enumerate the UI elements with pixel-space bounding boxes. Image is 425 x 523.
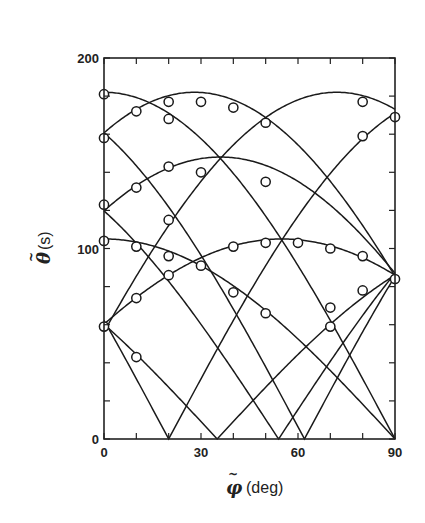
data-point [164,215,173,224]
y-tick-label: 100 [77,242,99,257]
y-axis-unit: (s) [36,231,53,250]
data-point [132,107,141,116]
data-point [164,97,173,106]
x-tick-label: 30 [194,445,208,460]
fit-curve-fit-2 [104,92,395,332]
data-point [229,288,238,297]
data-point [132,352,141,361]
data-point [261,177,270,186]
x-tick-label: 60 [291,445,305,460]
data-point [358,132,367,141]
data-point [164,114,173,123]
data-point [229,103,238,112]
data-point [164,252,173,261]
fit-curve-fit-9 [104,239,395,324]
x-axis-label: φ ~ (deg) [226,467,283,498]
data-point [293,238,302,247]
axis-ticks [104,58,395,439]
data-point [326,303,335,312]
plot-frame [104,58,395,439]
data-point [132,293,141,302]
data-point [261,238,270,247]
y-axis-tilde: ~ [24,252,38,262]
tick-labels: 03060900100200 [77,51,402,460]
data-point [132,183,141,192]
data-point [164,162,173,171]
data-point [196,168,205,177]
x-axis-unit: (deg) [246,479,283,496]
data-point [196,97,205,106]
data-point [358,286,367,295]
data-point [132,242,141,251]
data-point [196,261,205,270]
y-tick-label: 0 [92,432,99,447]
chart: 03060900100200 φ ~ (deg) θ ~ (s) [0,0,425,523]
data-point [164,271,173,280]
y-tick-label: 200 [77,51,99,66]
fit-curve-fit-3 [104,92,395,276]
data-point [326,322,335,331]
data-point [261,118,270,127]
data-point [326,244,335,253]
x-tick-label: 0 [100,445,107,460]
y-axis-label: θ ~ (s) [24,231,54,264]
x-tick-label: 90 [388,445,402,460]
fit-curves [104,92,395,439]
fit-curve-fit-5 [104,113,395,439]
data-point [229,242,238,251]
data-point [261,309,270,318]
data-point [358,97,367,106]
x-axis-tilde: ~ [228,467,238,481]
data-point [358,252,367,261]
fit-curve-fit-1 [104,92,395,439]
